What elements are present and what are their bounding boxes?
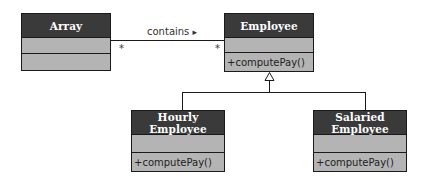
class-salaried-employee[interactable]: Salaried Employee +computePay() bbox=[313, 110, 407, 172]
class-array[interactable]: Array bbox=[21, 13, 111, 71]
generalization-triangle-icon bbox=[264, 72, 275, 81]
generalization-branch-salaried bbox=[365, 92, 366, 110]
class-employee-methods: +computePay() bbox=[225, 53, 313, 71]
class-hourly-employee-name: Hourly Employee bbox=[132, 111, 224, 135]
class-salaried-employee-name: Salaried Employee bbox=[314, 111, 406, 135]
association-label-text: contains bbox=[147, 26, 189, 37]
class-hourly-employee-methods: +computePay() bbox=[132, 153, 224, 171]
class-employee[interactable]: Employee +computePay() bbox=[224, 13, 314, 72]
class-employee-name: Employee bbox=[225, 14, 313, 38]
direction-arrow-icon: ▸ bbox=[193, 27, 198, 37]
class-array-attributes bbox=[22, 38, 110, 54]
generalization-branch-hourly bbox=[182, 92, 183, 110]
multiplicity-employee-end: * bbox=[215, 43, 220, 54]
class-array-methods bbox=[22, 54, 110, 70]
association-label: contains ▸ bbox=[147, 26, 197, 37]
class-hourly-employee-attributes bbox=[132, 135, 224, 153]
class-array-name: Array bbox=[22, 14, 110, 38]
class-hourly-employee[interactable]: Hourly Employee +computePay() bbox=[131, 110, 225, 172]
class-salaried-employee-methods: +computePay() bbox=[314, 153, 406, 171]
generalization-bar bbox=[182, 92, 366, 93]
association-line bbox=[111, 40, 224, 41]
multiplicity-array-end: * bbox=[119, 43, 124, 54]
class-salaried-employee-attributes bbox=[314, 135, 406, 153]
class-employee-attributes bbox=[225, 38, 313, 53]
